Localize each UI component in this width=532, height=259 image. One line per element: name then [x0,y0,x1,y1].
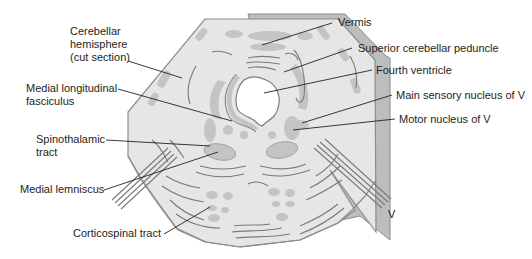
label-fourth-ventricle: Fourth ventricle [376,64,452,77]
label-corticospinal-tract: Corticospinal tract [73,227,161,240]
label-medial-longitudinal-fasciculus: Medial longitudinal fasciculus [26,82,117,108]
label-superior-cerebellar-peduncle: Superior cerebellar peduncle [358,42,499,55]
label-medial-lemniscus: Medial lemniscus [20,183,104,196]
label-cerebellar-hemisphere: Cerebellar hemisphere (cut section) [70,25,130,64]
label-spinothalamic-tract: Spinothalamic tract [36,133,105,159]
label-trigeminal-nerve: V [388,208,395,221]
pons-cross-section-diagram: Cerebellar hemisphere (cut section) Medi… [0,0,532,259]
label-vermis: Vermis [338,16,372,29]
label-motor-nucleus-v: Motor nucleus of V [399,113,491,126]
label-main-sensory-nucleus-v: Main sensory nucleus of V [396,89,525,102]
